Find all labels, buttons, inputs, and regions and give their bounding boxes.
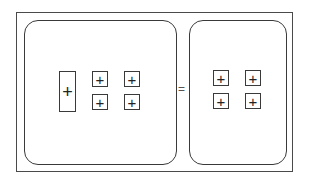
unit-tile-positive: +	[92, 71, 108, 87]
unit-tile-positive: +	[92, 94, 108, 110]
unit-tile-positive: +	[124, 71, 140, 87]
plus-sign: +	[96, 72, 105, 87]
unit-tile-positive: +	[213, 93, 229, 109]
unit-tile-positive: +	[124, 94, 140, 110]
right-side-panel	[189, 20, 287, 165]
plus-sign: +	[249, 71, 258, 86]
plus-sign: +	[128, 72, 137, 87]
plus-sign: +	[217, 71, 226, 86]
equals-sign: =	[178, 82, 185, 96]
x-tile-positive: +	[59, 71, 76, 112]
plus-sign: +	[96, 95, 105, 110]
left-side-panel	[24, 20, 177, 165]
plus-sign: +	[128, 95, 137, 110]
unit-tile-positive: +	[213, 70, 229, 86]
plus-sign: +	[62, 83, 73, 101]
unit-tile-positive: +	[245, 93, 261, 109]
plus-sign: +	[249, 94, 258, 109]
unit-tile-positive: +	[245, 70, 261, 86]
plus-sign: +	[217, 94, 226, 109]
